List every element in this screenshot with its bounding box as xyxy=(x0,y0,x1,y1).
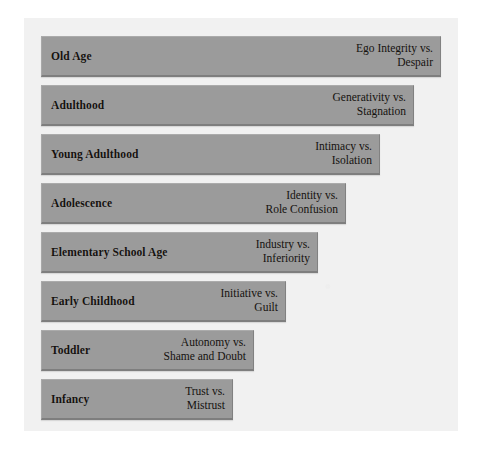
stage-crisis: Generativity vs. Stagnation xyxy=(333,91,413,118)
crisis-line-1: Trust vs. xyxy=(185,385,225,399)
stage-label: Young Adulthood xyxy=(42,148,138,160)
crisis-line-2: Guilt xyxy=(221,301,279,315)
stage-bar-toddler[interactable]: Toddler Autonomy vs. Shame and Doubt xyxy=(41,330,254,371)
stage-label: Infancy xyxy=(42,393,89,405)
stage-label: Toddler xyxy=(42,344,90,356)
stage-bar-old-age[interactable]: Old Age Ego Integrity vs. Despair xyxy=(41,36,441,77)
stage-label: Adulthood xyxy=(42,99,104,111)
stage-label: Adolescence xyxy=(42,197,112,209)
crisis-line-1: Initiative vs. xyxy=(221,287,279,301)
diagram-panel: Old Age Ego Integrity vs. Despair Adulth… xyxy=(24,18,458,431)
stage-crisis: Industry vs. Inferiority xyxy=(256,238,317,265)
stage-label: Elementary School Age xyxy=(42,246,167,258)
crisis-line-2: Despair xyxy=(356,56,433,70)
crisis-line-1: Ego Integrity vs. xyxy=(356,42,433,56)
crisis-line-1: Generativity vs. xyxy=(333,91,406,105)
crisis-line-2: Role Confusion xyxy=(265,203,338,217)
stage-crisis: Ego Integrity vs. Despair xyxy=(356,42,440,69)
stage-bar-list: Old Age Ego Integrity vs. Despair Adulth… xyxy=(41,36,441,416)
crisis-line-1: Intimacy vs. xyxy=(315,140,372,154)
crisis-line-1: Industry vs. xyxy=(256,238,310,252)
stage-crisis: Autonomy vs. Shame and Doubt xyxy=(164,336,253,363)
stage-crisis: Intimacy vs. Isolation xyxy=(315,140,379,167)
stage-crisis: Identity vs. Role Confusion xyxy=(265,189,345,216)
crisis-line-2: Mistrust xyxy=(185,399,225,413)
crisis-line-2: Stagnation xyxy=(333,105,406,119)
stage-bar-adolescence[interactable]: Adolescence Identity vs. Role Confusion xyxy=(41,183,346,224)
psychosocial-stages-figure: Old Age Ego Integrity vs. Despair Adulth… xyxy=(0,0,481,456)
crisis-line-1: Autonomy vs. xyxy=(164,336,246,350)
crisis-line-2: Inferiority xyxy=(256,252,310,266)
crisis-line-1: Identity vs. xyxy=(265,189,338,203)
crisis-line-2: Shame and Doubt xyxy=(164,350,246,364)
stage-bar-elementary-school-age[interactable]: Elementary School Age Industry vs. Infer… xyxy=(41,232,318,273)
stage-crisis: Trust vs. Mistrust xyxy=(185,385,232,412)
stage-bar-infancy[interactable]: Infancy Trust vs. Mistrust xyxy=(41,379,233,420)
stage-label: Early Childhood xyxy=(42,295,135,307)
stage-crisis: Initiative vs. Guilt xyxy=(221,287,286,314)
stage-bar-early-childhood[interactable]: Early Childhood Initiative vs. Guilt xyxy=(41,281,286,322)
stage-bar-young-adulthood[interactable]: Young Adulthood Intimacy vs. Isolation xyxy=(41,134,380,175)
stage-bar-adulthood[interactable]: Adulthood Generativity vs. Stagnation xyxy=(41,85,414,126)
crisis-line-2: Isolation xyxy=(315,154,372,168)
stage-label: Old Age xyxy=(42,50,92,62)
